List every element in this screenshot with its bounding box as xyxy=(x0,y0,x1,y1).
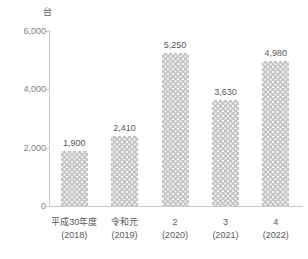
y-axis-line xyxy=(49,30,50,207)
y-tick-label: 4,000 xyxy=(23,84,46,94)
bar[interactable] xyxy=(162,53,189,206)
bar-value-label: 1,900 xyxy=(44,138,104,148)
x-axis-line xyxy=(49,206,303,207)
bar-chart: 台 02,0004,0006,000 1,9002,4105,2503,6304… xyxy=(0,0,308,259)
bar-value-label: 5,250 xyxy=(145,40,205,50)
y-tick-label: 6,000 xyxy=(23,26,46,36)
bar[interactable] xyxy=(111,136,138,206)
category-era-label: 4 xyxy=(244,216,308,229)
category-year-label: (2022) xyxy=(244,229,308,242)
bar[interactable] xyxy=(262,61,289,206)
y-tick-label: 0 xyxy=(41,201,46,211)
y-axis-unit-label: 台 xyxy=(43,6,52,18)
x-axis-category-label: 4(2022) xyxy=(244,216,308,242)
bar[interactable] xyxy=(61,151,88,206)
bar-value-label: 2,410 xyxy=(95,123,155,133)
bar-value-label: 3,630 xyxy=(195,87,255,97)
bar-value-label: 4,980 xyxy=(246,48,306,58)
bar[interactable] xyxy=(212,100,239,206)
y-tick-label: 2,000 xyxy=(23,143,46,153)
